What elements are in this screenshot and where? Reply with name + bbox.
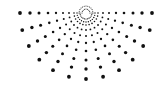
dot bbox=[88, 18, 89, 19]
dot bbox=[112, 60, 115, 63]
dot bbox=[56, 20, 58, 22]
dot bbox=[94, 21, 96, 23]
dot bbox=[85, 59, 88, 62]
dot bbox=[73, 12, 75, 14]
dot bbox=[79, 34, 81, 36]
dot bbox=[90, 17, 91, 18]
dot bbox=[104, 45, 107, 48]
dot bbox=[27, 44, 31, 48]
dot bbox=[93, 41, 95, 43]
dot bbox=[73, 24, 75, 26]
dot bbox=[75, 18, 77, 20]
arc-dot bbox=[84, 9, 85, 10]
dot bbox=[93, 17, 94, 18]
dot bbox=[118, 45, 121, 48]
dot bbox=[108, 52, 111, 55]
dot bbox=[47, 12, 50, 15]
dot bbox=[92, 19, 93, 20]
dot bbox=[97, 57, 100, 60]
arc-dot bbox=[88, 10, 89, 11]
arc-dot bbox=[82, 6, 83, 7]
dot bbox=[85, 42, 87, 44]
dot bbox=[111, 27, 113, 29]
dot bbox=[66, 45, 69, 48]
dot bbox=[30, 26, 33, 29]
arc-dot bbox=[86, 6, 87, 7]
dot bbox=[48, 22, 51, 25]
dot bbox=[125, 35, 128, 38]
arc-dot bbox=[89, 11, 90, 12]
dot bbox=[38, 12, 41, 15]
dot bbox=[61, 52, 64, 55]
dot bbox=[112, 39, 115, 42]
dot bbox=[96, 18, 98, 20]
dot bbox=[87, 18, 88, 19]
dot bbox=[79, 19, 80, 20]
dot bbox=[91, 23, 93, 25]
dot bbox=[70, 65, 73, 68]
arc-dot bbox=[87, 9, 88, 10]
dot bbox=[91, 34, 93, 36]
dot bbox=[97, 24, 99, 26]
dot bbox=[85, 24, 87, 26]
dot bbox=[94, 12, 95, 13]
dot bbox=[102, 12, 104, 14]
dot bbox=[105, 24, 107, 26]
arc-dot bbox=[90, 13, 91, 14]
dot bbox=[90, 20, 91, 21]
dot bbox=[63, 18, 65, 20]
dot bbox=[59, 27, 61, 29]
arc-dot bbox=[84, 6, 85, 7]
arc-dot bbox=[92, 11, 93, 12]
dot bbox=[101, 75, 105, 79]
dot bbox=[55, 12, 57, 14]
dot bbox=[77, 15, 78, 16]
dot bbox=[58, 39, 61, 42]
dot bbox=[141, 44, 145, 48]
dot bbox=[37, 58, 41, 62]
dot bbox=[79, 12, 80, 13]
dot bbox=[101, 28, 103, 30]
dot bbox=[84, 18, 85, 19]
dot bbox=[65, 24, 67, 26]
dot bbox=[75, 48, 78, 51]
dot bbox=[94, 27, 96, 29]
dot bbox=[85, 29, 87, 31]
dot bbox=[138, 26, 141, 29]
arc-dot bbox=[79, 9, 80, 10]
dot bbox=[102, 17, 104, 19]
dot bbox=[91, 14, 92, 15]
dot bbox=[51, 68, 55, 72]
dot bbox=[69, 17, 71, 19]
dot bbox=[77, 21, 79, 23]
arc-dot bbox=[79, 11, 80, 12]
dot bbox=[115, 12, 117, 14]
dot bbox=[69, 28, 71, 30]
arc-dot bbox=[82, 11, 83, 12]
radial-dot-sunburst bbox=[0, 0, 162, 91]
dot bbox=[64, 33, 66, 35]
arc-dot bbox=[93, 13, 94, 14]
dot bbox=[85, 35, 87, 37]
dot bbox=[100, 38, 102, 40]
dot bbox=[84, 67, 87, 70]
dot bbox=[131, 58, 135, 62]
dot bbox=[114, 20, 116, 22]
dot bbox=[70, 21, 72, 23]
dot bbox=[39, 24, 42, 27]
dot bbox=[81, 29, 83, 31]
center-arcs bbox=[79, 6, 94, 14]
arc-dot bbox=[86, 9, 87, 10]
dot bbox=[83, 21, 84, 22]
dot bbox=[62, 12, 64, 14]
dot bbox=[79, 23, 81, 25]
dot bbox=[88, 21, 89, 22]
dot bbox=[130, 24, 133, 27]
dot bbox=[150, 11, 154, 15]
dot bbox=[106, 33, 108, 35]
dot bbox=[78, 17, 79, 18]
arc-dot bbox=[92, 9, 93, 10]
dot bbox=[45, 51, 48, 54]
dot bbox=[77, 41, 79, 43]
dot bbox=[52, 31, 55, 34]
